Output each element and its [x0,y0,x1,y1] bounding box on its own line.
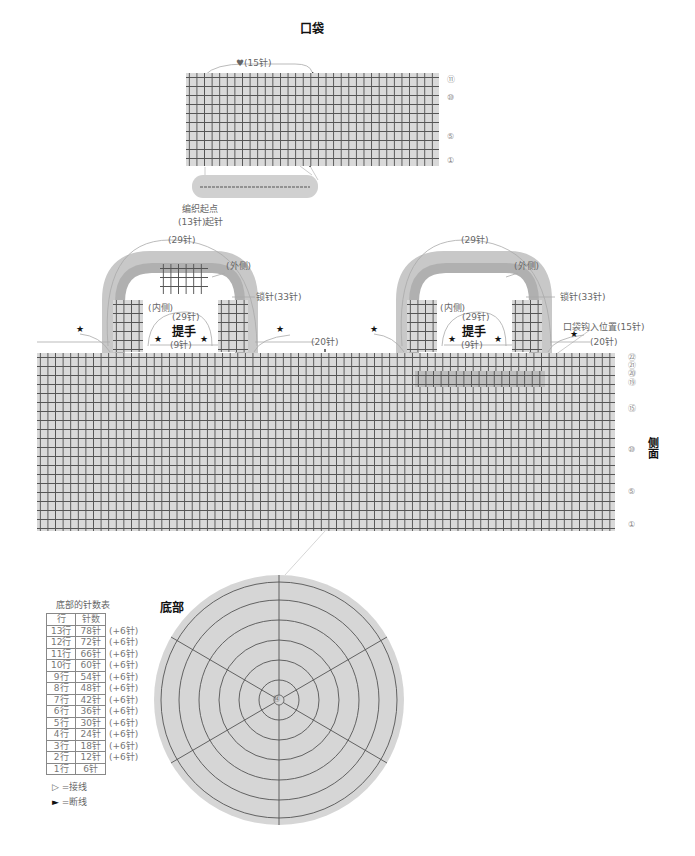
stitch-table-title: 底部的针数表 [56,601,110,610]
row-cell: 10行 [47,660,76,672]
pocket-stitch-grid [186,73,439,166]
row-cell: 13行 [47,625,76,637]
pocket-row-marker: ① [447,157,454,165]
join-triangle-icon: ▷ [52,782,59,792]
count-cell: 42针 [76,694,105,706]
side-right-width: (20针) [590,338,617,347]
count-cell: 48针 [76,683,105,695]
left-handle-top-grid [160,264,208,294]
row-cell: 6行 [47,706,76,718]
increase-cell: (+6针) [105,671,142,683]
side-row-marker: ⑳ [628,370,636,378]
pocket-row-marker: ⑤ [447,133,454,141]
stitch-count-table: 行 针数 13行78针(+6针) 12行72针(+6针) 11行66针(+6针)… [46,613,143,775]
count-cell: 18针 [76,740,105,752]
pocket-start-count: (13针)起针 [178,218,223,227]
row-cell: 12行 [47,637,76,649]
left-handle-chain-label: 锁针(33针) [256,293,301,302]
row-cell: 7行 [47,694,76,706]
right-handle-outer-label: (外侧) [514,262,539,271]
row-cell: 11行 [47,648,76,660]
left-handle-outer-label: (外侧) [226,262,251,271]
row-cell: 2行 [47,752,76,764]
increase-cell: (+6针) [105,717,142,729]
pocket-position-label: 口袋钩入位置(15针) [563,323,644,332]
bottom-center-marker: ⑭ [273,696,280,703]
side-row-marker: ① [628,521,635,529]
legend-cut-text: =断线 [62,797,88,807]
count-cell: 60针 [76,660,105,672]
increase-cell: (+6针) [105,648,142,660]
right-handle-outer-width: (29针) [461,236,488,245]
row-cell: 9行 [47,671,76,683]
row-cell: 5行 [47,717,76,729]
right-handle-gap-label: (9针) [461,341,483,350]
table-header: 行 [47,614,76,626]
increase-cell: (+6针) [105,637,142,649]
legend-join: ▷ =接线 [52,780,87,793]
side-row-marker: ⑮ [628,405,636,413]
star-icon: ★ [494,335,502,344]
increase-cell: (+6针) [105,694,142,706]
star-icon: ★ [200,335,208,344]
row-cell: 8行 [47,683,76,695]
side-row-marker: ⑤ [628,488,635,496]
increase-cell: (+6针) [105,752,142,764]
table-row: 9行54针(+6针) [47,671,143,683]
right-handle-inner-width: (29针) [462,313,489,322]
row-cell: 1行 [47,763,76,775]
pocket-heart-label: ♥(15针) [236,59,272,68]
table-row: 11行66针(+6针) [47,648,143,660]
side-row-marker: ⑲ [628,379,636,387]
table-row: 8行48针(+6针) [47,683,143,695]
star-icon: ★ [448,335,456,344]
table-header-row: 行 针数 [47,614,143,626]
left-handle-outer-width: (29针) [168,236,195,245]
right-handle-chain-label: 锁针(33针) [560,293,605,302]
pocket-row-marker: ⑩ [447,94,454,102]
count-cell: 24针 [76,729,105,741]
legend-join-text: =接线 [62,782,88,792]
count-cell: 30针 [76,717,105,729]
count-cell: 66针 [76,648,105,660]
increase-cell: (+6针) [105,660,142,672]
row-cell: 4行 [47,729,76,741]
side-row-marker: ⑩ [628,446,635,454]
left-handle-inner-width: (29针) [172,313,199,322]
table-header: 针数 [76,614,105,626]
increase-cell: (+6针) [105,625,142,637]
increase-cell: (+6针) [105,740,142,752]
side-title: 侧面 [647,437,658,459]
table-row: 4行24针(+6针) [47,729,143,741]
star-icon: ★ [76,325,84,334]
table-row: 13行78针(+6针) [47,625,143,637]
legend-cut: ► =断线 [52,795,87,808]
count-cell: 78针 [76,625,105,637]
count-cell: 72针 [76,637,105,649]
left-handle-gap-label: (9针) [170,341,192,350]
increase-cell [105,763,142,775]
table-row: 1行6针 [47,763,143,775]
count-cell: 54针 [76,671,105,683]
pocket-attach-band [415,371,545,387]
left-handle-right-leg-grid [218,300,248,352]
side-center-width: (20针) [311,338,338,347]
pocket-title: 口袋 [300,23,324,35]
bottom-title: 底部 [160,602,184,614]
table-row: 2行12针(+6针) [47,752,143,764]
count-cell: 6针 [76,763,105,775]
increase-cell: (+6针) [105,683,142,695]
left-handle-inner-label: (内侧) [148,304,173,313]
star-icon: ★ [154,335,162,344]
right-handle-title: 提手 [462,326,486,338]
table-row: 6行36针(+6针) [47,706,143,718]
left-handle-left-leg-grid [113,300,143,352]
cut-triangle-icon: ► [52,797,59,807]
right-handle-right-leg-grid [512,300,542,352]
table-row: 7行42针(+6针) [47,694,143,706]
pocket-start-label: 编织起点 [182,205,218,214]
pocket-row-marker: ⑪ [447,76,455,84]
increase-cell: (+6针) [105,706,142,718]
row-cell: 3行 [47,740,76,752]
star-icon: ★ [276,325,284,334]
